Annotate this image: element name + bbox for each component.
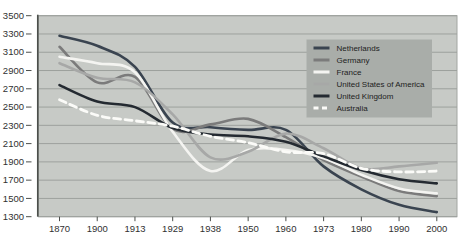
y-axis-label: 2300: [3, 120, 24, 131]
line-chart-page: 1300150017001900210023002500270029003100…: [0, 0, 461, 245]
x-axis-label: 1870: [49, 223, 70, 234]
y-axis-label: 1300: [3, 211, 24, 222]
x-axis-label: 2000: [426, 223, 447, 234]
y-axis-label: 1500: [3, 193, 24, 204]
legend-label: Australia: [337, 104, 369, 113]
legend-label: Germany: [337, 56, 370, 65]
x-axis-label: 1938: [200, 223, 221, 234]
y-axis-label: 2700: [3, 83, 24, 94]
legend-label: Netherlands: [337, 44, 380, 53]
y-axis-labels: 1300150017001900210023002500270029003100…: [3, 10, 32, 222]
x-axis-label: 1950: [238, 223, 259, 234]
x-axis-label: 1900: [87, 223, 108, 234]
x-axis-label: 1913: [124, 223, 145, 234]
legend: NetherlandsGermanyFranceUnited States of…: [307, 40, 433, 118]
y-axis-label: 3100: [3, 46, 24, 57]
y-axis-label: 1900: [3, 156, 24, 167]
y-axis-label: 3500: [3, 10, 24, 21]
x-axis-label: 1929: [162, 223, 183, 234]
legend-label: United Kingdom: [337, 92, 394, 101]
legend-label: United States of America: [337, 80, 426, 89]
y-axis-label: 2900: [3, 65, 24, 76]
y-axis-label: 3300: [3, 28, 24, 39]
y-axis-label: 2100: [3, 138, 24, 149]
y-axis-label: 2500: [3, 101, 24, 112]
x-axis-labels: 1870190019131929193819501960197319801990…: [49, 217, 447, 234]
legend-label: France: [337, 68, 362, 77]
x-axis-label: 1980: [351, 223, 372, 234]
x-axis-label: 1973: [313, 223, 334, 234]
x-axis-label: 1960: [275, 223, 296, 234]
y-axis-label: 1700: [3, 174, 24, 185]
working-hours-line-chart: 1300150017001900210023002500270029003100…: [0, 0, 461, 245]
x-axis-label: 1990: [388, 223, 409, 234]
